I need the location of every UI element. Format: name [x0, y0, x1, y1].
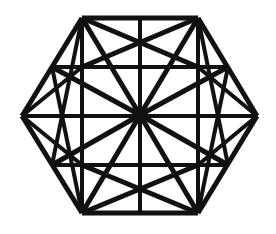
hexagon-star-grid-figure: Hexagonal Star Grid Line Drawing: [0, 0, 276, 234]
center-hub-node: [135, 110, 145, 120]
